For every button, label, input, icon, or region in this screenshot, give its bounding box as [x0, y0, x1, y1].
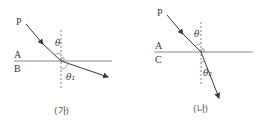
caption: (나): [193, 104, 208, 114]
point-label: P: [157, 7, 163, 18]
refracted-angle-label: θ₁: [66, 72, 75, 82]
diagram-na: P A C θ θ₂ (나): [154, 7, 253, 114]
refracted-angle-arc: [61, 64, 68, 69]
incident-angle-label: θ: [55, 38, 61, 48]
lower-medium-label: B: [14, 63, 21, 74]
refracted-angle-label: θ₂: [203, 68, 212, 78]
incident-ray: [167, 15, 183, 34]
lower-medium-label: C: [155, 54, 162, 65]
upper-medium-label: A: [14, 49, 22, 60]
refraction-diagrams: P A B θ θ₁ (가) P A C θ θ₂ (나): [0, 0, 265, 125]
upper-medium-label: A: [155, 40, 163, 51]
point-label: P: [16, 16, 22, 27]
incident-ray: [26, 24, 43, 44]
caption: (가): [54, 106, 69, 116]
diagram-ga: P A B θ θ₁ (가): [14, 16, 112, 116]
incident-angle-arc: [195, 44, 201, 46]
incident-angle-label: θ: [194, 29, 200, 39]
incident-angle-arc: [55, 53, 61, 55]
